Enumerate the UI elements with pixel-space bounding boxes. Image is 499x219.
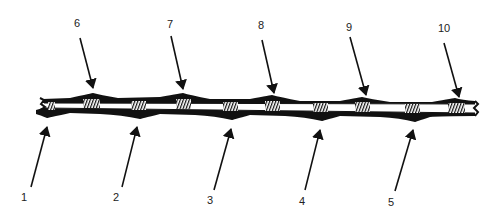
label-7: 7	[167, 18, 173, 30]
label-2: 2	[113, 191, 119, 203]
arrow-7	[171, 36, 183, 89]
strip-diagram	[0, 0, 499, 219]
arrow-4	[305, 130, 320, 190]
arrow-1	[31, 127, 47, 187]
arrow-9	[350, 37, 366, 95]
label-10: 10	[438, 22, 450, 34]
label-4: 4	[299, 195, 305, 207]
arrow-5	[395, 130, 413, 191]
label-3: 3	[207, 194, 213, 206]
arrow-10	[444, 43, 459, 97]
arrow-8	[262, 40, 274, 93]
arrow-3	[214, 129, 231, 190]
arrow-6	[80, 38, 93, 88]
label-9: 9	[346, 21, 352, 33]
label-1: 1	[21, 191, 27, 203]
label-5: 5	[388, 196, 394, 208]
label-6: 6	[74, 17, 80, 29]
label-8: 8	[258, 19, 264, 31]
arrow-2	[122, 127, 137, 187]
